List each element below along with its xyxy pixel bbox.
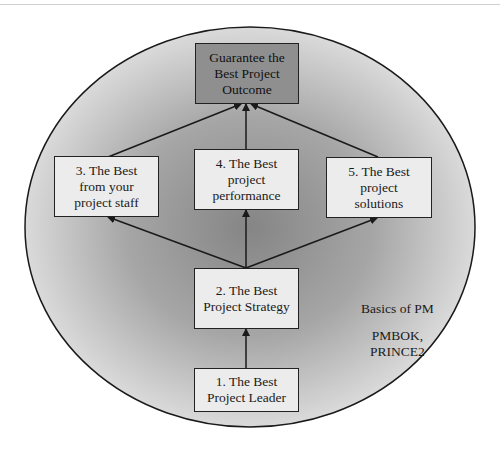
box1-line-2: Project Leader [207,390,286,406]
outcome-line-3: Outcome [209,82,284,98]
standards-label: PMBOK, PRINCE2 [340,328,455,360]
box-1-leader: 1. The Best Project Leader [194,368,299,412]
box-4-performance: 4. The Best project performance [194,149,299,210]
box1-line-1: 1. The Best [207,374,286,390]
box5-line-2: project [348,180,410,196]
box5-line-1: 5. The Best [348,164,410,180]
box2-line-1: 2. The Best [203,283,290,299]
standards-line-2: PRINCE2 [340,344,455,360]
box-2-strategy: 2. The Best Project Strategy [194,268,299,329]
standards-line-1: PMBOK, [340,328,455,344]
box-5-solutions: 5. The Best project solutions [326,157,432,218]
box4-line-3: performance [212,188,280,204]
box3-line-1: 3. The Best [74,163,139,179]
box2-line-2: Project Strategy [203,299,290,315]
box3-line-2: from your [74,179,139,195]
box-outcome: Guarantee the Best Project Outcome [195,43,299,104]
outcome-line-1: Guarantee the [209,50,284,66]
box-3-staff: 3. The Best from your project staff [54,156,159,217]
box4-line-2: project [212,172,280,188]
box4-line-1: 4. The Best [212,156,280,172]
box5-line-3: solutions [348,196,410,212]
outcome-line-2: Best Project [209,66,284,82]
box3-line-3: project staff [74,195,139,211]
basics-of-pm-label: Basics of PM [340,301,455,317]
